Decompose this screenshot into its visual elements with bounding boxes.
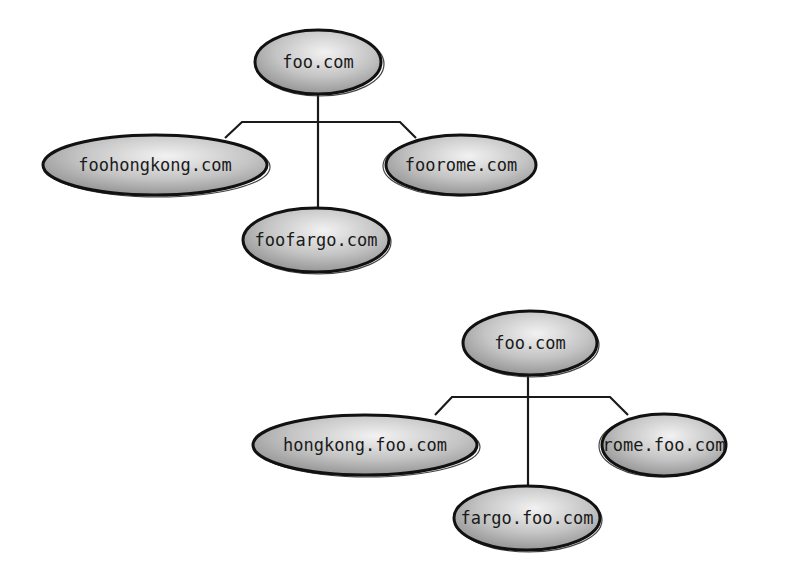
node-hongkong-foo[interactable]: hongkong.foo.com: [253, 415, 480, 477]
node-rome-foo[interactable]: rome.foo.com: [599, 414, 726, 477]
node-foohongkong[interactable]: foohongkong.com: [43, 135, 270, 197]
tree-subdomains: foo.com hongkong.foo.com rome.foo.com fa…: [253, 311, 726, 552]
node-label: rome.foo.com: [603, 435, 726, 455]
node-label: hongkong.foo.com: [283, 435, 447, 455]
bus-line: [225, 122, 416, 138]
domain-diagram: foo.com foohongkong.com foorome.com foof…: [0, 0, 790, 582]
node-label: foofargo.com: [255, 230, 378, 250]
node-label: foo.com: [494, 333, 566, 353]
node-root[interactable]: foo.com: [463, 311, 599, 377]
tree-flat-domains: foo.com foohongkong.com foorome.com foof…: [43, 30, 536, 274]
node-foofargo[interactable]: foofargo.com: [243, 208, 391, 274]
node-label: foorome.com: [405, 155, 518, 175]
node-root[interactable]: foo.com: [255, 30, 384, 96]
node-foorome[interactable]: foorome.com: [383, 135, 536, 196]
node-label: fargo.foo.com: [460, 508, 593, 528]
node-fargo-foo[interactable]: fargo.foo.com: [454, 486, 602, 552]
node-label: foohongkong.com: [78, 155, 232, 175]
bus-line: [435, 397, 628, 415]
node-label: foo.com: [282, 52, 354, 72]
